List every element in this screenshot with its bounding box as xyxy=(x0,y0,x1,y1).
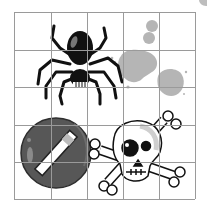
grid-tile-r2-c4[interactable] xyxy=(123,50,159,87)
grid-tile-r2-c5[interactable] xyxy=(159,50,195,87)
grid-tile-r2-c3[interactable] xyxy=(87,50,123,87)
grid-tile-r2-c1[interactable] xyxy=(14,50,51,87)
grid-tile-r1-c3[interactable] xyxy=(87,12,123,50)
grid-tile-r3-c3[interactable] xyxy=(87,87,123,125)
grid-tile-r3-c1[interactable] xyxy=(14,87,51,125)
grid-tile-r1-c1[interactable] xyxy=(14,12,51,50)
image-grid xyxy=(0,0,207,213)
grid-tile-r4-c5[interactable] xyxy=(159,125,195,162)
grid-tile-r2-c2[interactable] xyxy=(51,50,87,87)
grid-tile-r3-c4[interactable] xyxy=(123,87,159,125)
grid-tile-r4-c1[interactable] xyxy=(14,125,51,162)
grid-tile-r1-c4[interactable] xyxy=(123,12,159,50)
grid-tile-r5-c2[interactable] xyxy=(51,162,87,199)
grid-tile-r5-c1[interactable] xyxy=(14,162,51,199)
grid-tile-r5-c3[interactable] xyxy=(87,162,123,199)
grid-tile-r1-c2[interactable] xyxy=(51,12,87,50)
grid-tile-r5-c4[interactable] xyxy=(123,162,159,199)
grid-tile-r3-c2[interactable] xyxy=(51,87,87,125)
grid-tile-r4-c4[interactable] xyxy=(123,125,159,162)
grid-tile-r4-c3[interactable] xyxy=(87,125,123,162)
grid-tile-r5-c5[interactable] xyxy=(159,162,195,199)
grid-tile-r4-c2[interactable] xyxy=(51,125,87,162)
grid-tile-r3-c5[interactable] xyxy=(159,87,195,125)
grid-tile-r1-c5[interactable] xyxy=(159,12,195,50)
